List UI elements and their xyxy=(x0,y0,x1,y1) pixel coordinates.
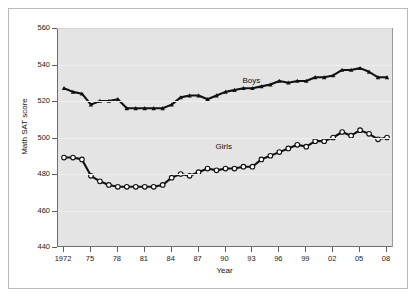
data-point-marker xyxy=(71,155,76,160)
x-axis-tick xyxy=(63,247,64,252)
y-axis-tick xyxy=(52,101,57,102)
plot-top-edge xyxy=(57,28,392,29)
x-axis-tick-label: 02 xyxy=(328,254,336,263)
data-point-marker xyxy=(304,144,309,149)
data-point-marker xyxy=(223,166,228,171)
x-axis-tick-label: 05 xyxy=(355,254,363,263)
x-axis-tick-label: 81 xyxy=(140,254,148,263)
data-point-marker xyxy=(62,155,67,160)
data-point-marker xyxy=(125,184,130,189)
x-axis-tick xyxy=(144,247,145,252)
gridline xyxy=(58,138,392,139)
x-axis-tick xyxy=(359,247,360,252)
data-point-marker xyxy=(322,139,327,144)
x-axis-tick xyxy=(251,247,252,252)
data-point-marker xyxy=(98,179,103,184)
data-point-marker xyxy=(295,143,300,148)
data-point-marker xyxy=(358,128,363,133)
data-point-marker xyxy=(313,139,318,144)
x-axis-tick xyxy=(278,247,279,252)
series-label-boys: Boys xyxy=(242,76,260,85)
data-point-marker xyxy=(259,157,264,162)
plot-area xyxy=(57,28,392,247)
series-line-girls xyxy=(64,130,387,187)
y-axis-tick-label: 460 xyxy=(24,206,50,215)
data-point-marker xyxy=(80,157,85,162)
y-axis-tick xyxy=(52,138,57,139)
x-axis-tick xyxy=(198,247,199,252)
data-point-marker xyxy=(214,168,219,173)
data-point-marker xyxy=(133,184,138,189)
data-point-marker xyxy=(250,164,255,169)
gridline xyxy=(58,101,392,102)
x-axis-tick-label: 75 xyxy=(86,254,94,263)
y-axis-tick xyxy=(52,65,57,66)
x-axis-tick xyxy=(332,247,333,252)
x-axis-title: Year xyxy=(57,266,392,275)
x-axis-tick-label: 08 xyxy=(382,254,390,263)
y-axis-tick-label: 560 xyxy=(24,23,50,32)
data-point-marker xyxy=(116,184,121,189)
data-point-marker xyxy=(232,166,237,171)
data-point-marker xyxy=(268,153,273,158)
x-axis-tick xyxy=(225,247,226,252)
data-point-marker xyxy=(142,184,147,189)
plot-right-edge xyxy=(392,28,393,247)
x-axis-tick xyxy=(117,247,118,252)
x-axis-tick-label: 90 xyxy=(220,254,228,263)
x-axis-tick xyxy=(90,247,91,252)
data-point-marker xyxy=(169,175,174,180)
x-axis-tick-label: 78 xyxy=(113,254,121,263)
y-axis-tick xyxy=(52,211,57,212)
x-axis-tick-label: 87 xyxy=(193,254,201,263)
y-axis-tick-label: 540 xyxy=(24,60,50,69)
x-axis-tick xyxy=(386,247,387,252)
y-axis-tick xyxy=(52,28,57,29)
data-point-marker xyxy=(277,150,282,155)
data-point-marker xyxy=(107,183,112,188)
gridline xyxy=(58,65,392,66)
data-point-marker xyxy=(205,166,210,171)
gridline xyxy=(58,211,392,212)
y-axis-title: Math SAT score xyxy=(20,72,29,182)
x-axis-tick-label: 1972 xyxy=(55,254,72,263)
data-point-marker xyxy=(286,146,291,151)
data-point-marker xyxy=(151,184,156,189)
data-point-marker xyxy=(367,132,372,137)
x-axis-tick xyxy=(305,247,306,252)
data-point-marker xyxy=(160,183,165,188)
x-axis-tick-label: 99 xyxy=(301,254,309,263)
gridline xyxy=(58,174,392,175)
series-line-boys xyxy=(64,68,387,108)
x-axis-tick-label: 93 xyxy=(247,254,255,263)
data-point-marker xyxy=(340,130,345,135)
y-axis-tick-label: 440 xyxy=(24,242,50,251)
chart-figure: 440460480500520540560 197275788184879093… xyxy=(0,0,418,298)
series-label-girls: Girls xyxy=(216,142,232,151)
data-point-marker xyxy=(241,164,246,169)
y-axis-tick xyxy=(52,247,57,248)
y-axis-tick xyxy=(52,174,57,175)
x-axis-tick-label: 84 xyxy=(167,254,175,263)
x-axis-tick-label: 96 xyxy=(274,254,282,263)
x-axis-tick xyxy=(171,247,172,252)
